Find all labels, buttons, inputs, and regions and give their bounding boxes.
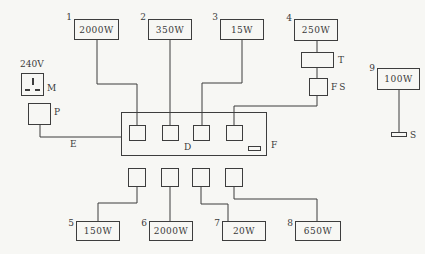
appliance-8-number: 8 bbox=[283, 219, 293, 228]
circuit-diagram: 1 2000W 2 350W 3 15W 4 250W T FS 9 100W … bbox=[0, 0, 425, 254]
plug-1 bbox=[128, 168, 146, 187]
appliance-5-number: 5 bbox=[64, 219, 74, 228]
fuse-box bbox=[309, 78, 328, 96]
mains-plug-box bbox=[28, 103, 51, 125]
wire-plug3-to-appliance7 bbox=[201, 187, 228, 221]
transformer-label: T bbox=[338, 56, 344, 65]
appliance-5-power: 150W bbox=[84, 226, 112, 236]
appliance-6-number: 6 bbox=[137, 219, 147, 228]
appliance-4-power: 250W bbox=[302, 25, 330, 35]
mains-voltage: 240V bbox=[20, 60, 44, 69]
appliance-4-box: 250W bbox=[294, 19, 338, 41]
mains-plug-label: P bbox=[54, 108, 60, 117]
wire-plug4-to-appliance8 bbox=[234, 187, 317, 221]
appliance-7-number: 7 bbox=[210, 219, 220, 228]
strip-socket-1 bbox=[129, 125, 146, 141]
appliance-8-power: 650W bbox=[304, 226, 332, 236]
lamp-switch-label: S bbox=[410, 131, 416, 140]
appliance-1-box: 2000W bbox=[74, 19, 119, 40]
appliance-7-power: 20W bbox=[233, 226, 255, 236]
appliance-3-box: 15W bbox=[220, 19, 264, 40]
appliance-3-power: 15W bbox=[231, 25, 253, 35]
strip-socket-3 bbox=[193, 125, 210, 141]
appliance-4-number: 4 bbox=[282, 14, 292, 23]
transformer-box bbox=[301, 52, 334, 68]
appliance-2-number: 2 bbox=[136, 13, 146, 22]
socket-live-pin bbox=[25, 89, 30, 91]
appliance-3-number: 3 bbox=[208, 13, 218, 22]
lead-label: E bbox=[70, 140, 77, 149]
fuse-label: FS bbox=[331, 83, 347, 92]
mains-socket-label: M bbox=[47, 84, 56, 93]
lamp-box: 100W bbox=[377, 68, 420, 90]
appliance-8-box: 650W bbox=[295, 221, 341, 241]
appliance-6-box: 2000W bbox=[149, 221, 193, 241]
strip-right-label: F bbox=[271, 141, 277, 150]
plug-3 bbox=[192, 168, 210, 187]
socket-neutral-pin bbox=[35, 89, 40, 91]
socket-earth-pin bbox=[32, 78, 34, 85]
plug-2 bbox=[161, 168, 179, 187]
strip-label: D bbox=[184, 143, 191, 152]
wire-plug1-to-appliance5 bbox=[98, 187, 137, 221]
strip-indicator-icon bbox=[248, 146, 261, 151]
plug-4 bbox=[225, 168, 243, 187]
appliance-1-number: 1 bbox=[62, 13, 72, 22]
appliance-2-box: 350W bbox=[148, 19, 192, 40]
strip-socket-4 bbox=[226, 125, 243, 141]
appliance-5-box: 150W bbox=[76, 221, 120, 241]
lamp-number: 9 bbox=[365, 64, 375, 73]
appliance-6-power: 2000W bbox=[154, 226, 189, 236]
strip-socket-2 bbox=[162, 125, 179, 141]
lamp-switch-icon bbox=[391, 132, 407, 137]
wire-plug-to-strip-lead-E bbox=[40, 125, 121, 137]
appliance-2-power: 350W bbox=[156, 25, 184, 35]
appliance-7-box: 20W bbox=[222, 221, 266, 241]
lamp-power: 100W bbox=[384, 74, 412, 84]
appliance-1-power: 2000W bbox=[79, 25, 114, 35]
mains-socket-icon bbox=[21, 73, 44, 96]
